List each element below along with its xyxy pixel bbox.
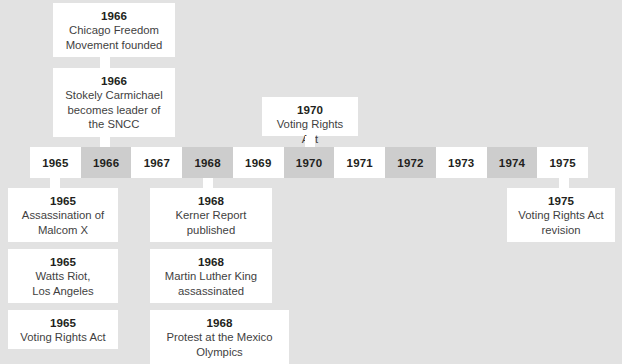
- event-year: 1966: [59, 8, 169, 23]
- event-box-1966-chicago-freedom-movement: 1966 Chicago Freedom Movement founded: [53, 3, 175, 57]
- year-cell-1968[interactable]: 1968: [182, 147, 233, 178]
- year-cell-1971[interactable]: 1971: [334, 147, 385, 178]
- event-year: 1965: [14, 193, 112, 208]
- year-cell-1974[interactable]: 1974: [487, 147, 538, 178]
- event-box-1965-assassination-malcom-x: 1965 Assassination of Malcom X: [8, 188, 118, 242]
- year-cell-1966[interactable]: 1966: [81, 147, 132, 178]
- year-cell-1969[interactable]: 1969: [233, 147, 284, 178]
- event-box-1968-mexico-olympics: 1968 Protest at the Mexico Olympics: [150, 310, 289, 364]
- year-cell-1965[interactable]: 1965: [30, 147, 81, 178]
- event-text: Martin Luther King assassinated: [156, 269, 266, 298]
- connector-stub-1966-lower: [100, 137, 110, 147]
- event-text: Assassination of Malcom X: [14, 208, 112, 237]
- connector-stub-1968: [203, 178, 213, 188]
- event-box-1975-voting-rights-act-revision: 1975 Voting Rights Act revision: [507, 188, 615, 242]
- event-text: Voting Rights Act: [14, 330, 112, 345]
- event-text: Voting Rights Act revision: [513, 208, 609, 237]
- connector-stub-1970: [305, 136, 315, 147]
- event-box-1965-voting-rights-act: 1965 Voting Rights Act: [8, 310, 118, 349]
- event-box-1965-watts-riot: 1965 Watts Riot, Los Angeles: [8, 249, 118, 303]
- event-box-1968-martin-luther-king: 1968 Martin Luther King assassinated: [150, 249, 272, 303]
- year-cell-1972[interactable]: 1972: [385, 147, 436, 178]
- event-box-1966-stokely-carmichael: 1966 Stokely Carmichael becomes leader o…: [53, 68, 175, 137]
- year-cell-1975[interactable]: 1975: [537, 147, 588, 178]
- year-axis: 1965 1966 1967 1968 1969 1970 1971 1972 …: [30, 147, 588, 178]
- connector-stub-1965: [50, 178, 60, 188]
- event-text: Protest at the Mexico Olympics: [156, 330, 283, 359]
- year-cell-1973[interactable]: 1973: [436, 147, 487, 178]
- year-cell-1967[interactable]: 1967: [131, 147, 182, 178]
- event-year: 1968: [156, 193, 266, 208]
- connector-stub-1966-upper: [100, 57, 110, 68]
- year-cell-1970[interactable]: 1970: [284, 147, 335, 178]
- connector-stub-1975: [559, 178, 569, 188]
- event-year: 1968: [156, 254, 266, 269]
- event-year: 1970: [268, 102, 352, 117]
- event-text: Kerner Report published: [156, 208, 266, 237]
- event-text: Watts Riot, Los Angeles: [14, 269, 112, 298]
- event-year: 1966: [59, 73, 169, 88]
- event-year: 1965: [14, 315, 112, 330]
- event-year: 1975: [513, 193, 609, 208]
- event-box-1968-kerner-report: 1968 Kerner Report published: [150, 188, 272, 242]
- event-year: 1968: [156, 315, 283, 330]
- event-text: Chicago Freedom Movement founded: [59, 23, 169, 52]
- event-box-1970-voting-rights-act: 1970 Voting Rights Act: [262, 97, 358, 136]
- event-text: Stokely Carmichael becomes leader of the…: [59, 88, 169, 132]
- event-year: 1965: [14, 254, 112, 269]
